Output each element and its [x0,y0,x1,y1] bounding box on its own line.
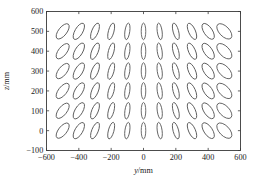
y-tick-label: −100 [26,146,43,155]
x-tick-label: 200 [170,153,182,162]
x-tick-label: 400 [202,153,214,162]
y-tick-label: 600 [31,7,43,16]
x-tick-label: 600 [234,153,246,162]
x-tick-label: 0 [141,153,145,162]
y-tick-label: 500 [31,27,43,36]
y-tick-label: 100 [31,107,43,116]
ellipse-field-plot: −600−400−2000200400600 −1000100200300400… [0,0,255,183]
y-tick-label: 400 [31,47,43,56]
y-tick-label: 0 [39,127,43,136]
y-axis-title: z/mm [2,71,11,91]
y-tick-label: 200 [31,87,43,96]
y-tick-label: 300 [31,67,43,76]
x-tick-label: −400 [70,153,87,162]
x-tick-label: −200 [103,153,120,162]
x-axis-title: y/mm [133,166,153,175]
chart-figure: −600−400−2000200400600 −1000100200300400… [0,0,255,183]
